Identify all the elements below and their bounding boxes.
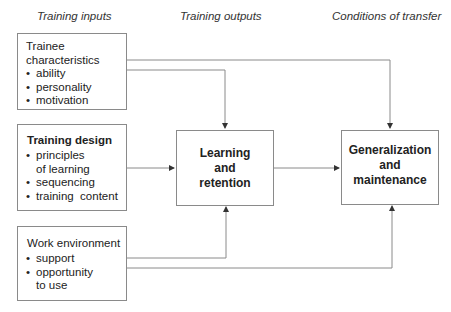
list-item: •personality	[18, 81, 126, 95]
trainee-title-line2: characteristics	[26, 53, 126, 67]
list-item: •ability	[18, 67, 126, 81]
learning-line2: and	[199, 161, 250, 176]
generalization-line2: and	[349, 158, 432, 173]
training-design-box: Training design •principles of learning …	[17, 124, 127, 211]
work-environment-box: Work environment •support •opportunity t…	[17, 226, 127, 301]
list-item: •motivation	[18, 94, 126, 108]
list-item: •training content	[18, 190, 126, 204]
generalization-maintenance-box: Generalization and maintenance	[341, 130, 439, 205]
learning-line3: retention	[199, 176, 250, 191]
learning-line1: Learning	[199, 146, 250, 161]
list-item: •sequencing	[18, 176, 126, 190]
trainee-title-line1: Trainee	[26, 39, 126, 53]
trainee-characteristics-box: Trainee characteristics •ability •person…	[17, 33, 127, 110]
list-item: to use	[18, 279, 126, 293]
generalization-line1: Generalization	[349, 143, 432, 158]
training-design-title: Training design	[27, 133, 126, 147]
learning-retention-box: Learning and retention	[176, 130, 274, 206]
list-item: •support	[18, 252, 126, 266]
generalization-line3: maintenance	[349, 173, 432, 188]
list-item: of learning	[18, 163, 126, 177]
list-item: •principles	[18, 149, 126, 163]
list-item: •opportunity	[18, 266, 126, 280]
work-environment-title: Work environment	[27, 236, 126, 250]
